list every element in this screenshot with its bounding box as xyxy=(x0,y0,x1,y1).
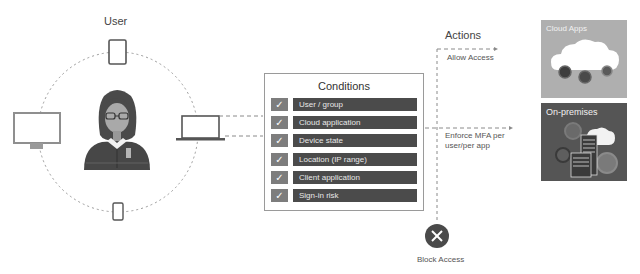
user-avatar-icon xyxy=(84,90,150,170)
on-premises-tile: On-premises xyxy=(541,103,627,181)
condition-sign-in-risk: ✓ Sign-in risk xyxy=(271,189,417,202)
desktop-monitor-icon xyxy=(14,113,60,149)
condition-cloud-application: ✓ Cloud application xyxy=(271,116,417,129)
allow-access-label: Allow Access xyxy=(447,53,494,62)
cloud-apps-tile: Cloud Apps xyxy=(541,20,627,98)
condition-device-state: ✓ Device state xyxy=(271,134,417,147)
tablet-icon xyxy=(109,40,126,64)
conditions-title: Conditions xyxy=(265,80,423,92)
condition-label: Sign-in risk xyxy=(293,189,417,202)
actions-title: Actions xyxy=(445,29,481,41)
checkmark-icon: ✓ xyxy=(271,116,288,129)
condition-label: Client application xyxy=(293,171,417,184)
conditions-panel: Conditions ✓ User / group ✓ Cloud applic… xyxy=(264,73,424,211)
mfa-label-line1: Enforce MFA per xyxy=(445,131,505,140)
smartphone-icon xyxy=(113,203,123,220)
checkmark-icon: ✓ xyxy=(271,189,288,202)
checkmark-icon: ✓ xyxy=(271,134,288,147)
laptop-icon xyxy=(176,116,225,141)
cloud-icon xyxy=(541,20,627,98)
condition-location: ✓ Location (IP range) xyxy=(271,153,417,166)
checkmark-icon: ✓ xyxy=(271,171,288,184)
condition-client-application: ✓ Client application xyxy=(271,171,417,184)
building-icon xyxy=(541,103,627,181)
block-access-icon xyxy=(425,224,449,248)
condition-label: User / group xyxy=(293,98,417,111)
user-title: User xyxy=(104,15,127,27)
checkmark-icon: ✓ xyxy=(271,98,288,111)
checkmark-icon: ✓ xyxy=(271,153,288,166)
condition-user-group: ✓ User / group xyxy=(271,98,417,111)
condition-label: Location (IP range) xyxy=(293,153,417,166)
mfa-label-line2: user/per app xyxy=(445,141,490,150)
condition-label: Device state xyxy=(293,134,417,147)
block-access-label: Block Access xyxy=(417,255,464,264)
condition-label: Cloud application xyxy=(293,116,417,129)
